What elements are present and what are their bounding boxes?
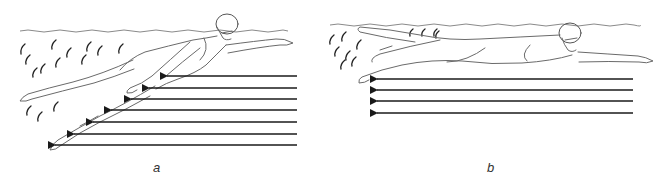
panel-label-a: a (153, 160, 160, 175)
panel-label-b: b (487, 160, 494, 175)
figure: a b (0, 0, 663, 184)
flow-arrows-b (377, 79, 633, 113)
water-surface-a (20, 30, 288, 32)
swimmer-figure-a (20, 14, 293, 150)
flow-arrows-a (55, 76, 297, 145)
panel-a (20, 14, 297, 150)
swimmer-figure-b (358, 23, 653, 83)
water-surface-b (330, 24, 640, 26)
turbulence-marks-a (21, 40, 123, 121)
panel-b (330, 23, 653, 113)
figure-canvas (0, 0, 663, 184)
